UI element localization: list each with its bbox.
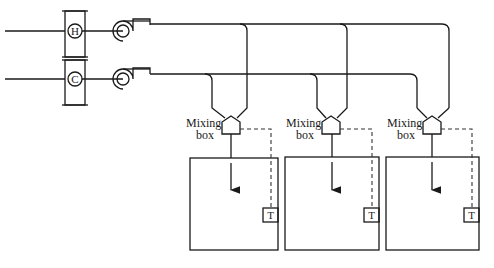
hot-deck-fan-icon — [113, 19, 150, 41]
mixing-box-label-2b: box — [296, 128, 314, 142]
zone-1: Mixing box T — [186, 24, 278, 250]
cooling-coil-symbol: C — [71, 73, 78, 85]
dual-duct-diagram: H C Mixing — [0, 0, 494, 268]
mixing-box-2 — [322, 116, 340, 134]
zone-2: Mixing box T — [285, 24, 379, 250]
mixing-box-label-3b: box — [397, 128, 415, 142]
cooling-coil: C — [62, 60, 88, 105]
heating-coil-symbol: H — [71, 25, 79, 37]
cold-deck-supply: C — [5, 60, 417, 108]
mixing-box-label-1b: box — [196, 128, 214, 142]
thermostat-1: T — [267, 209, 274, 221]
heating-coil: H — [62, 11, 88, 57]
zone-3: Mixing box T — [386, 108, 479, 250]
room-1 — [190, 158, 278, 250]
thermostat-2: T — [368, 209, 375, 221]
thermostat-3: T — [468, 209, 475, 221]
mixing-box-3 — [423, 116, 441, 134]
mixing-box-1 — [222, 116, 240, 134]
